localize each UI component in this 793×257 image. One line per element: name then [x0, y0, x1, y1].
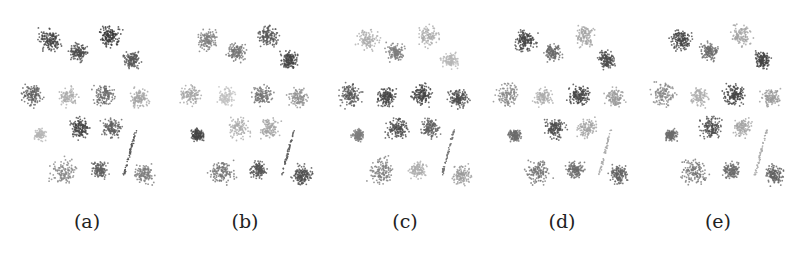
scatter-panel: (c) — [330, 0, 480, 200]
panel-caption: (d) — [487, 210, 637, 232]
cluster-plot — [170, 0, 320, 200]
cluster-plot — [330, 0, 480, 200]
panel-caption: (b) — [170, 210, 320, 232]
scatter-panel: (d) — [487, 0, 637, 200]
panel-caption: (e) — [643, 210, 793, 232]
panel-caption: (c) — [330, 210, 480, 232]
cluster-plot — [487, 0, 637, 200]
cluster-plot — [12, 0, 162, 200]
scatter-panel: (a) — [12, 0, 162, 200]
panel-caption: (a) — [12, 210, 162, 232]
cluster-plot — [643, 0, 793, 200]
scatter-panel: (b) — [170, 0, 320, 200]
scatter-panel: (e) — [643, 0, 793, 200]
